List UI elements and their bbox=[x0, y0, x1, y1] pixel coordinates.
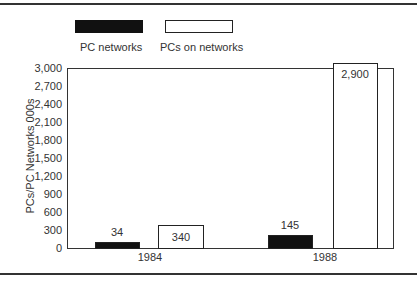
y-tick: 3,000 bbox=[2, 62, 62, 74]
value-label-1988-pc-networks: 145 bbox=[265, 219, 315, 231]
y-tick: 2,700 bbox=[2, 80, 62, 92]
x-tick-1988: 1988 bbox=[300, 251, 350, 263]
value-label-1984-pc-networks: 34 bbox=[92, 226, 142, 238]
bar-1984-pc-networks bbox=[95, 242, 140, 249]
legend-label-pc-networks: PC networks bbox=[80, 41, 142, 53]
bar-1988-pcs-on-networks bbox=[333, 63, 378, 249]
y-tick: 1,800 bbox=[2, 134, 62, 146]
y-tick: 600 bbox=[2, 206, 62, 218]
y-tick: 1,500 bbox=[2, 152, 62, 164]
y-tick: 900 bbox=[2, 188, 62, 200]
x-tick-1984: 1984 bbox=[125, 251, 175, 263]
y-tick: 300 bbox=[2, 224, 62, 236]
top-rule bbox=[0, 3, 417, 5]
value-label-1984-pcs-on-networks: 340 bbox=[156, 231, 206, 243]
y-tick: 1,200 bbox=[2, 170, 62, 182]
legend-label-pcs-on-networks: PCs on networks bbox=[160, 41, 243, 53]
legend-swatch-pcs-on-networks bbox=[165, 20, 233, 33]
y-tick: 0 bbox=[2, 242, 62, 254]
legend-swatch-pc-networks bbox=[75, 20, 143, 33]
value-label-1988-pcs-on-networks: 2,900 bbox=[330, 68, 380, 80]
bar-1988-pc-networks bbox=[268, 235, 313, 249]
y-tick: 2,100 bbox=[2, 116, 62, 128]
bottom-rule bbox=[0, 273, 417, 275]
y-tick: 2,400 bbox=[2, 98, 62, 110]
